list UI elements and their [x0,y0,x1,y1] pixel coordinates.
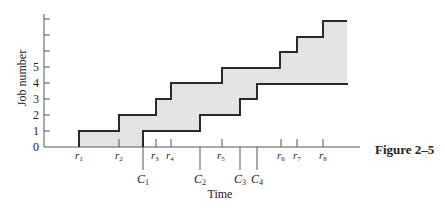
y-tick-label: 5 [33,60,39,74]
release-label-r6: r6 [277,149,285,163]
release-ticks [119,139,323,147]
release-label-r2: r2 [115,149,123,163]
completion-label-c1: C1 [137,172,149,187]
completion-label-c2: C2 [194,172,206,187]
release-label-r3: r3 [151,149,159,163]
y-tick-labels: 0 1 2 3 4 5 [33,60,39,154]
x-axis-label: Time [208,187,233,201]
release-label-r8: r8 [319,149,327,163]
y-axis-label: Job number [15,50,29,106]
release-label-r4: r4 [166,149,174,163]
y-tick-label: 1 [33,124,39,138]
completion-labels: C1 C2 C3 C4 [137,172,263,187]
release-label-r1: r1 [75,149,83,163]
completion-label-c4: C4 [251,172,263,187]
release-label-r5: r5 [217,149,225,163]
release-labels: r1 r2 r3 r4 r5 r6 r7 r8 [75,149,327,163]
figure-canvas: 0 1 2 3 4 5 Job number r1 r2 r3 r4 r5 r6… [0,0,445,208]
release-label-r7: r7 [293,149,301,163]
y-ticks [44,19,50,131]
y-tick-label: 3 [33,92,39,106]
y-tick-label: 2 [33,108,39,122]
completion-ticks [143,147,257,170]
figure-caption: Figure 2–5 [375,142,435,157]
y-tick-label: 0 [33,140,39,154]
completion-label-c3: C3 [234,172,246,187]
y-tick-label: 4 [33,76,39,90]
